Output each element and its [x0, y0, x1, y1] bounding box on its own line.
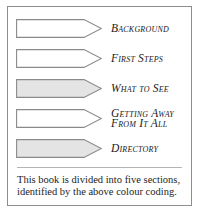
colour-swatch-arrow — [16, 109, 102, 128]
arrow-shape-icon — [16, 109, 102, 128]
legend-row-label: What to See — [111, 83, 169, 94]
colour-swatch-arrow — [16, 79, 102, 98]
legend-row-label: Background — [111, 23, 169, 34]
legend-row: Background — [8, 13, 191, 43]
legend-card: Background First Steps What to See — [7, 6, 192, 206]
legend-row-list: Background First Steps What to See — [8, 13, 191, 163]
colour-swatch-arrow — [16, 19, 102, 38]
legend-row: First Steps — [8, 43, 191, 73]
arrow-shape-icon — [16, 79, 102, 98]
arrow-shape-icon — [16, 19, 102, 38]
caption-line-2: identified by the above colour coding. — [17, 186, 185, 198]
caption-line-1: This book is divided into five sections, — [17, 174, 185, 186]
arrow-shape-icon — [16, 139, 102, 158]
legend-row: What to See — [8, 73, 191, 103]
legend-row-label: Getting Away From It All — [111, 108, 174, 129]
divider — [17, 167, 182, 168]
legend-row-label: First Steps — [111, 53, 163, 64]
caption: This book is divided into five sections,… — [17, 174, 185, 199]
colour-swatch-arrow — [16, 139, 102, 158]
legend-row-label: Directory — [111, 143, 158, 154]
arrow-shape-icon — [16, 49, 102, 68]
legend-row: Directory — [8, 133, 191, 163]
legend-row: Getting Away From It All — [8, 103, 191, 133]
colour-swatch-arrow — [16, 49, 102, 68]
